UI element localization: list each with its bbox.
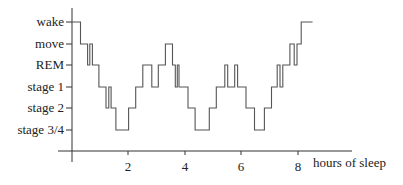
y-labels: wake move REM stage 1 stage 2 stage 3/4	[17, 14, 64, 137]
x-axis-label: hours of sleep	[313, 155, 386, 170]
y-label-move: move	[35, 36, 64, 51]
sleep-stage-trace	[72, 22, 313, 130]
y-label-stage-3-4: stage 3/4	[17, 122, 64, 137]
x-tick-6: 6	[238, 159, 245, 174]
hypnogram-chart: wake move REM stage 1 stage 2 stage 3/4 …	[0, 0, 403, 185]
y-label-stage-2: stage 2	[28, 100, 64, 115]
x-ticks	[128, 151, 298, 155]
x-tick-8: 8	[295, 159, 302, 174]
y-label-rem: REM	[36, 57, 65, 72]
x-tick-4: 4	[182, 159, 189, 174]
y-label-stage-1: stage 1	[28, 79, 64, 94]
y-label-wake: wake	[37, 14, 65, 29]
x-tick-2: 2	[125, 159, 132, 174]
x-tick-labels: 2 4 6 8	[125, 159, 302, 174]
y-ticks	[66, 22, 72, 130]
